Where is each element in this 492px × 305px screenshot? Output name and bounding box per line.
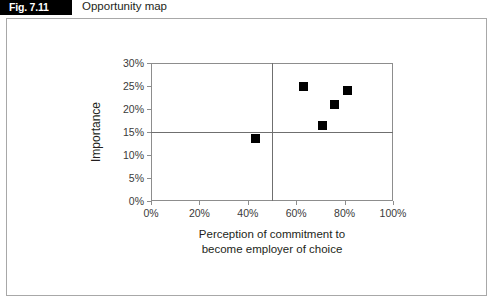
y-axis-tick-label: 30% [123, 57, 144, 69]
x-axis-tick-label: 100% [380, 207, 407, 219]
y-axis-tick-label: 10% [123, 149, 144, 161]
x-axis-tick [393, 201, 394, 205]
x-axis-tick [248, 201, 249, 205]
data-point [318, 121, 327, 130]
y-axis-tick-label: 15% [123, 126, 144, 138]
x-axis-tick-label: 20% [189, 207, 210, 219]
data-point [330, 100, 339, 109]
data-point [299, 82, 308, 91]
x-axis-tick [199, 201, 200, 205]
y-axis-tick-label: 0% [129, 195, 144, 207]
x-axis-tick [151, 201, 152, 205]
scatter-chart: Importance 0%5%10%15%20%25%30%0%20%40%60… [7, 19, 488, 297]
x-axis-tick [345, 201, 346, 205]
x-axis-title-line2: become employer of choice [151, 242, 393, 257]
figure-header: Fig. 7.11 Opportunity map [0, 0, 492, 16]
x-axis-tick-label: 60% [286, 207, 307, 219]
x-axis-tick-label: 0% [143, 207, 158, 219]
y-axis-tick [147, 155, 151, 156]
y-axis-title: Importance [89, 63, 103, 201]
data-point [343, 86, 352, 95]
y-axis-tick [147, 178, 151, 179]
figure-label: Fig. 7.11 [9, 1, 49, 13]
plot-area: 0%5%10%15%20%25%30%0%20%40%60%80%100% [151, 63, 393, 201]
y-axis-tick [147, 86, 151, 87]
x-axis-tick-label: 80% [334, 207, 355, 219]
y-axis-tick [147, 109, 151, 110]
figure-title: Opportunity map [82, 0, 167, 12]
y-axis-tick-label: 20% [123, 103, 144, 115]
y-axis-tick [147, 63, 151, 64]
figure-panel: Importance 0%5%10%15%20%25%30%0%20%40%60… [6, 18, 487, 296]
y-axis-tick-label: 5% [129, 172, 144, 184]
x-axis-tick [296, 201, 297, 205]
x-axis-tick-label: 40% [237, 207, 258, 219]
data-point [251, 134, 260, 143]
vertical-reference-line [272, 63, 273, 201]
x-axis-title: Perception of commitment to become emplo… [151, 227, 393, 257]
x-axis-title-line1: Perception of commitment to [151, 227, 393, 242]
y-axis-tick-label: 25% [123, 80, 144, 92]
